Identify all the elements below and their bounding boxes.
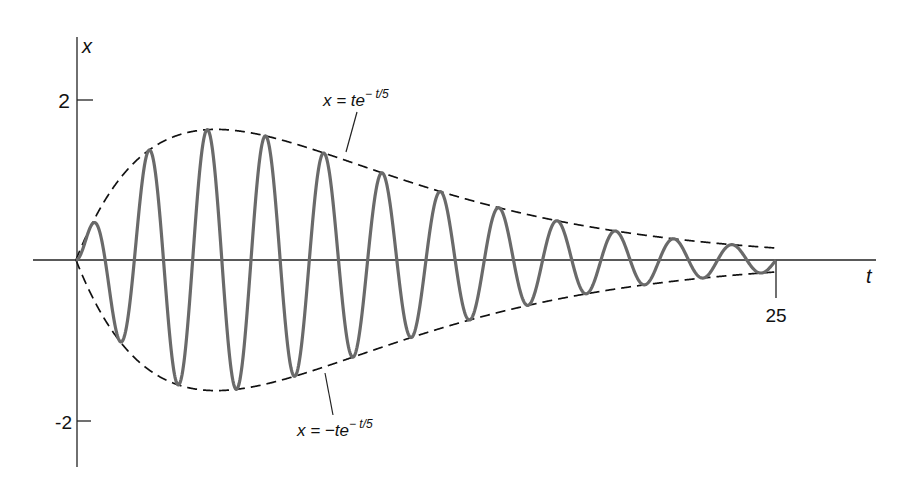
lower-annotation-leader bbox=[325, 373, 333, 415]
y-tick-label-2: 2 bbox=[58, 89, 70, 112]
lower-label-base: x = −te bbox=[296, 421, 349, 440]
y-tick-label-neg2: -2 bbox=[55, 412, 72, 433]
upper-label-exponent: − t/5 bbox=[365, 87, 389, 101]
lower-envelope-label: x = −te− t/5 bbox=[296, 417, 373, 440]
lower-envelope-line bbox=[76, 260, 776, 391]
upper-label-base: x = te bbox=[322, 91, 365, 110]
plot-canvas: 2 -2 25 x t x = te− t/5 x = −te− t/5 bbox=[0, 0, 897, 479]
upper-envelope-label: x = te− t/5 bbox=[322, 87, 389, 110]
lower-label-exponent: − t/5 bbox=[349, 417, 373, 431]
x-tick-label-25: 25 bbox=[765, 305, 786, 326]
x-axis-label: t bbox=[866, 265, 873, 287]
y-axis-label: x bbox=[81, 35, 93, 57]
upper-annotation-leader bbox=[346, 112, 357, 152]
chart-figure: 2 -2 25 x t x = te− t/5 x = −te− t/5 bbox=[0, 0, 897, 479]
